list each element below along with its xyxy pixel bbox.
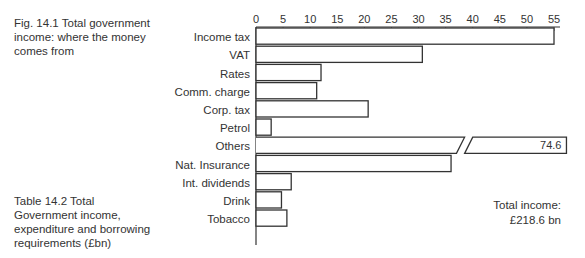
bar <box>256 155 451 171</box>
tick-label: 55 <box>548 13 560 25</box>
bar <box>256 28 554 44</box>
tick-label: 35 <box>440 13 452 25</box>
category-label: Drink <box>223 195 250 207</box>
category-label: Int. dividends <box>182 177 250 189</box>
tick-label: 50 <box>521 13 533 25</box>
tick-label: 30 <box>412 13 424 25</box>
category-label: VAT <box>229 49 250 61</box>
bar-value-label: 74.6 <box>540 139 561 151</box>
tick-label: 45 <box>494 13 506 25</box>
bar <box>256 210 287 226</box>
category-label: Petrol <box>220 122 250 134</box>
bar-broken-left <box>256 137 465 153</box>
bar <box>256 46 422 62</box>
category-label: Corp. tax <box>203 104 250 116</box>
tick-label: 10 <box>304 13 316 25</box>
total-value: £218.6 bn <box>493 213 561 228</box>
bar <box>256 101 368 117</box>
total-income: Total income: £218.6 bn <box>493 198 561 228</box>
bar <box>256 192 281 208</box>
bar <box>256 83 317 99</box>
bar <box>256 119 271 135</box>
category-label: Nat. Insurance <box>175 159 250 171</box>
category-label: Income tax <box>194 31 250 43</box>
tick-label: 40 <box>467 13 479 25</box>
bar <box>256 174 291 190</box>
bar <box>256 64 321 80</box>
total-label: Total income: <box>493 198 561 213</box>
tick-label: 0 <box>253 13 259 25</box>
category-label: Rates <box>220 68 250 80</box>
category-label: Comm. charge <box>175 86 250 98</box>
tick-label: 25 <box>385 13 397 25</box>
tick-label: 15 <box>331 13 343 25</box>
tick-label: 5 <box>280 13 286 25</box>
category-label: Tobacco <box>207 213 250 225</box>
tick-label: 20 <box>358 13 370 25</box>
category-label: Others <box>215 140 250 152</box>
